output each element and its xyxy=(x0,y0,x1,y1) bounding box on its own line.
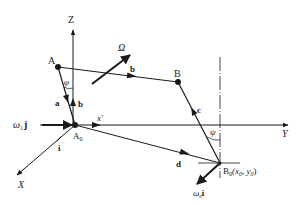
joint-a0-label: A0 xyxy=(73,131,83,142)
joint-b0-label: B0(x0, y0) xyxy=(223,166,257,177)
vector-a-label: a xyxy=(55,98,60,108)
link-b xyxy=(58,67,178,82)
omega-label: Ω xyxy=(118,42,125,53)
joint-a0 xyxy=(72,122,78,128)
link-c xyxy=(178,82,220,163)
psi-angle-arc xyxy=(207,137,220,140)
joint-b0 xyxy=(219,162,222,165)
joint-a xyxy=(55,64,61,70)
d-arrow-icon xyxy=(179,149,190,157)
link-d xyxy=(75,125,220,163)
psi-label: ψ xyxy=(210,127,216,137)
vector-b-unit-label: b xyxy=(78,99,83,109)
omega0-vector xyxy=(197,163,220,184)
b-unit-arrow-icon xyxy=(70,98,76,106)
joint-b-label: B xyxy=(174,68,181,79)
joint-a-label: A xyxy=(48,55,56,66)
vector-c-label: c xyxy=(197,105,201,115)
phi-angle-arc xyxy=(64,87,73,89)
x-prime-label: x′ xyxy=(96,113,104,123)
phi-label: φ xyxy=(64,77,69,87)
z-axis-label: Z xyxy=(68,14,74,25)
y-axis-label: Y xyxy=(282,128,289,139)
x-axis xyxy=(17,125,75,175)
omega1-label: ω1j xyxy=(13,119,27,131)
omega-vector xyxy=(92,55,130,84)
joint-b xyxy=(175,79,181,85)
vector-d-label: d xyxy=(176,159,181,169)
a-arrow-icon xyxy=(63,94,71,103)
linkage-diagram: Z Y X i x′ a b φ b Ω c ψ d ω1j ω0i xyxy=(0,0,300,205)
vector-i-label: i xyxy=(58,143,61,153)
omega0-label: ω0i xyxy=(193,188,205,199)
vector-b-link-label: b xyxy=(130,64,135,74)
x-axis-label: X xyxy=(17,179,25,190)
